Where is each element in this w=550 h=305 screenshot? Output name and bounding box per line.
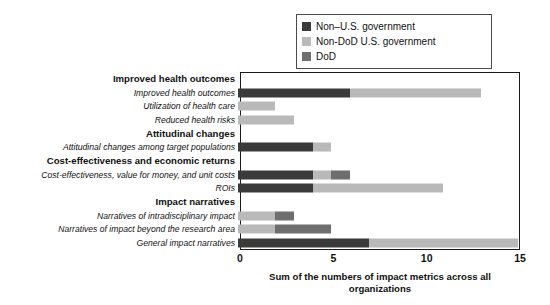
chart-group-row: Impact narratives <box>0 195 520 210</box>
group-label: Improved health outcomes <box>0 74 238 84</box>
bar-segment[interactable] <box>313 170 332 179</box>
bar-segment[interactable] <box>238 102 275 111</box>
category-label: Narratives of intradisciplinary impact <box>0 211 238 221</box>
x-axis-ticks: 051015 <box>240 250 520 270</box>
legend-item[interactable]: Non-DoD U.S. government <box>302 34 485 49</box>
chart-bar-row: ROIs <box>0 181 520 196</box>
chart-bar-row: Cost-effectiveness, value for money, and… <box>0 167 520 182</box>
chart-bar-row: Improved health outcomes <box>0 85 520 100</box>
legend-item[interactable]: DoD <box>302 49 485 64</box>
impact-metrics-bar-chart: Non–U.S. governmentNon-DoD U.S. governme… <box>0 0 550 305</box>
bar-segment[interactable] <box>350 88 481 97</box>
category-label: Attitudinal changes among target populat… <box>0 142 238 152</box>
chart-bar-row: Reduced health risks <box>0 113 520 128</box>
bar-segment[interactable] <box>238 239 369 248</box>
legend-swatch-dod <box>302 52 311 61</box>
bar-segment[interactable] <box>238 170 313 179</box>
bar-segment[interactable] <box>238 143 313 152</box>
legend-item-label: Non–U.S. government <box>316 21 415 32</box>
category-label: Utilization of health care <box>0 101 238 111</box>
category-label: Narratives of impact beyond the research… <box>0 224 238 234</box>
category-label: Reduced health risks <box>0 115 238 125</box>
legend-item-label: Non-DoD U.S. government <box>316 36 436 47</box>
chart-group-row: Improved health outcomes <box>0 71 520 86</box>
bar-segment[interactable] <box>238 225 275 234</box>
x-tick-label: 10 <box>421 252 433 264</box>
bar-area <box>238 71 520 86</box>
bar-area <box>238 85 520 100</box>
x-tick-label: 15 <box>514 252 526 264</box>
category-label: General impact narratives <box>0 238 238 248</box>
category-label: Improved health outcomes <box>0 88 238 98</box>
x-axis-title-line-1: Sum of the numbers of impact metrics acr… <box>240 271 520 283</box>
x-axis-title: Sum of the numbers of impact metrics acr… <box>240 271 520 295</box>
legend-item-label: DoD <box>316 51 336 62</box>
chart-bar-row: Utilization of health care <box>0 99 520 114</box>
x-axis-title-line-2: organizations <box>240 283 520 295</box>
bar-segment[interactable] <box>313 184 444 193</box>
group-label: Attitudinal changes <box>0 129 238 139</box>
x-tick-label: 0 <box>237 252 243 264</box>
category-label: ROIs <box>0 183 238 193</box>
x-tick-label: 5 <box>330 252 336 264</box>
chart-rows: Improved health outcomesImproved health … <box>0 72 520 250</box>
bar-area <box>238 140 520 155</box>
legend-item[interactable]: Non–U.S. government <box>302 19 485 34</box>
bar-area <box>238 236 520 251</box>
group-label: Impact narratives <box>0 197 238 207</box>
bar-segment[interactable] <box>313 143 332 152</box>
chart-bar-row: Attitudinal changes among target populat… <box>0 140 520 155</box>
chart-bar-row: Narratives of impact beyond the research… <box>0 222 520 237</box>
bar-segment[interactable] <box>275 225 331 234</box>
bar-segment[interactable] <box>238 115 294 124</box>
bar-area <box>238 167 520 182</box>
legend-swatch-non-us-government <box>302 22 311 31</box>
bar-segment[interactable] <box>238 88 350 97</box>
chart-legend: Non–U.S. governmentNon-DoD U.S. governme… <box>296 14 492 69</box>
category-label: Cost-effectiveness, value for money, and… <box>0 170 238 180</box>
bar-area <box>238 181 520 196</box>
chart-group-row: Cost-effectiveness and economic returns <box>0 154 520 169</box>
bar-segment[interactable] <box>275 211 294 220</box>
bar-area <box>238 113 520 128</box>
chart-bar-row: General impact narratives <box>0 236 520 251</box>
chart-group-row: Attitudinal changes <box>0 126 520 141</box>
bar-area <box>238 154 520 169</box>
bar-segment[interactable] <box>238 184 313 193</box>
bar-segment[interactable] <box>238 211 275 220</box>
bar-segment[interactable] <box>331 170 350 179</box>
bar-area <box>238 126 520 141</box>
bar-segment[interactable] <box>369 239 518 248</box>
bar-area <box>238 222 520 237</box>
chart-bar-row: Narratives of intradisciplinary impact <box>0 208 520 223</box>
legend-swatch-non-dod-us-government <box>302 37 311 46</box>
bar-area <box>238 195 520 210</box>
group-label: Cost-effectiveness and economic returns <box>0 156 238 166</box>
bar-area <box>238 99 520 114</box>
bar-area <box>238 208 520 223</box>
